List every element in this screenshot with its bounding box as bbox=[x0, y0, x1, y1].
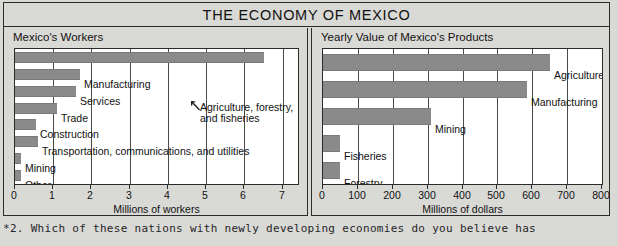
axis-tick-label: 200 bbox=[383, 189, 401, 201]
axis-tick-label: 500 bbox=[487, 189, 505, 201]
axis-tick-label: 600 bbox=[522, 189, 540, 201]
bar bbox=[15, 69, 80, 80]
axis-tick-label: 5 bbox=[202, 189, 208, 201]
bar bbox=[15, 119, 36, 130]
bar bbox=[323, 162, 340, 179]
gridline bbox=[168, 49, 169, 184]
bar bbox=[323, 54, 550, 71]
bar-label: Agriculture bbox=[554, 70, 603, 81]
gridline bbox=[602, 49, 603, 184]
axis-tick-label: 1 bbox=[49, 189, 55, 201]
plot-area-products: AgricultureManufacturingMiningFisheriesF… bbox=[322, 48, 603, 185]
bar bbox=[15, 136, 38, 147]
page-caption: *2. Which of these nations with newly de… bbox=[3, 222, 615, 235]
chart-title-products: Yearly Value of Mexico's Products bbox=[321, 31, 493, 43]
axis-tick-label: 0 bbox=[11, 189, 17, 201]
bar bbox=[15, 103, 57, 114]
axis-tick-label: 400 bbox=[453, 189, 471, 201]
bar bbox=[15, 153, 21, 164]
axis-tick-label: 800 bbox=[592, 189, 610, 201]
bar bbox=[323, 81, 527, 98]
axis-tick-label: 3 bbox=[126, 189, 132, 201]
gridline bbox=[91, 49, 92, 184]
axis-tick-label: 300 bbox=[418, 189, 436, 201]
axis-tick-label: 6 bbox=[240, 189, 246, 201]
bar bbox=[323, 135, 340, 152]
bar-label: Fisheries bbox=[344, 151, 387, 162]
bar-label: Manufacturing bbox=[531, 97, 598, 108]
axis-tick-label: 4 bbox=[164, 189, 170, 201]
annotation-agriculture: Agriculture, forestry, and fisheries bbox=[200, 102, 293, 123]
bar-label: Services bbox=[80, 96, 120, 107]
bar-label: Manufacturing bbox=[84, 79, 151, 90]
bar bbox=[15, 52, 264, 63]
axis-tick-label: 7 bbox=[279, 189, 285, 201]
bar bbox=[15, 86, 76, 97]
bar-label: Mining bbox=[435, 124, 466, 135]
axis-tick-label: 700 bbox=[557, 189, 575, 201]
bar-label: Mining bbox=[25, 163, 56, 174]
annotation-line-2: and fisheries bbox=[200, 113, 293, 124]
bar bbox=[15, 170, 21, 181]
bar-label: Trade bbox=[61, 113, 88, 124]
bar-label: Transportation, communications, and util… bbox=[42, 146, 249, 157]
axis-tick-label: 0 bbox=[319, 189, 325, 201]
figure-title: THE ECONOMY OF MEXICO bbox=[203, 7, 411, 23]
bar-label: Forestry bbox=[344, 178, 383, 185]
x-axis-label-workers: Millions of workers bbox=[14, 203, 299, 215]
axis-tick-label: 2 bbox=[87, 189, 93, 201]
bar-label: Construction bbox=[40, 129, 99, 140]
axis-tick-label: 100 bbox=[348, 189, 366, 201]
bar-label: Other bbox=[25, 180, 51, 185]
economy-of-mexico-figure: THE ECONOMY OF MEXICO Mexico's Workers M… bbox=[3, 2, 610, 216]
chart-panel-products: Yearly Value of Mexico's Products Agricu… bbox=[312, 28, 611, 216]
gridline bbox=[130, 49, 131, 184]
chart-panel-workers: Mexico's Workers ManufacturingServicesTr… bbox=[4, 28, 307, 216]
x-axis-label-products: Millions of dollars bbox=[322, 203, 603, 215]
bar bbox=[323, 108, 431, 125]
annotation-line-1: Agriculture, forestry, bbox=[200, 102, 293, 113]
figure-title-bar: THE ECONOMY OF MEXICO bbox=[4, 3, 609, 27]
chart-title-workers: Mexico's Workers bbox=[13, 31, 103, 43]
